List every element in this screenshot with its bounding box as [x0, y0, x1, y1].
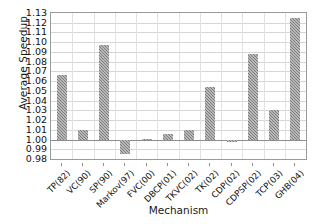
- gridline-vertical: [94, 13, 95, 159]
- bar-cdp02: [227, 140, 237, 142]
- gridline-vertical: [179, 13, 180, 159]
- x-tick-mark: [209, 163, 210, 166]
- bar-dbcp01: [163, 134, 173, 140]
- baseline-1-00: [51, 140, 306, 141]
- gridline-vertical: [242, 13, 243, 159]
- plot-area: [50, 12, 307, 160]
- x-tick-mark: [188, 163, 189, 166]
- bar-tk02: [205, 87, 215, 139]
- bar-fvc00: [142, 139, 152, 141]
- x-tick-mark: [103, 163, 104, 166]
- gridline-vertical: [72, 13, 73, 159]
- x-tick-mark: [252, 163, 253, 166]
- bar-chart: Average Speedup 1.131.121.111.101.091.08…: [0, 0, 317, 224]
- x-axis-tick-labels: TP(82)VC(90)SP(90)Markov(97)FVC(00)DBCP(…: [50, 163, 307, 208]
- bar-ghb04: [290, 18, 300, 140]
- bar-cdpsp02: [248, 54, 258, 139]
- x-axis-title: Mechanism: [50, 204, 307, 216]
- gridline-vertical: [221, 13, 222, 159]
- gridline-vertical: [200, 13, 201, 159]
- x-tick-mark: [167, 163, 168, 166]
- gridline-vertical: [285, 13, 286, 159]
- y-axis-tick-labels: 1.131.121.111.101.091.081.071.061.051.04…: [0, 12, 47, 160]
- gridline-vertical: [115, 13, 116, 159]
- x-tick-mark: [294, 163, 295, 166]
- x-tick-mark: [231, 163, 232, 166]
- bar-tkvc02: [184, 130, 194, 139]
- bar-tcp03: [269, 110, 279, 140]
- x-tick-mark: [124, 163, 125, 166]
- bar-tp82: [57, 75, 67, 139]
- x-tick-mark: [82, 163, 83, 166]
- bar-vc90: [78, 130, 88, 140]
- y-tick-label: 0.98: [3, 153, 47, 164]
- gridline-vertical: [136, 13, 137, 159]
- bar-sp90: [99, 45, 109, 139]
- x-tick-mark: [146, 163, 147, 166]
- x-tick-mark: [273, 163, 274, 166]
- x-tick-mark: [61, 163, 62, 166]
- gridline-vertical: [264, 13, 265, 159]
- gridline-vertical: [157, 13, 158, 159]
- bar-markov97: [120, 140, 130, 155]
